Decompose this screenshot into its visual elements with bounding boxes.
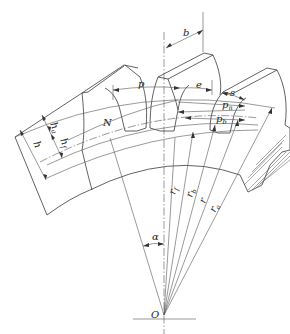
label-b: b [183,27,189,38]
pressure-angle-line [110,138,164,315]
rim-arc [90,165,240,190]
label-alpha: α [152,231,159,242]
radial-lines [110,108,272,315]
pn-dimension-line-2 [178,110,245,112]
rf-line [164,138,175,315]
hatched-section [240,125,290,192]
left-tooth [15,65,147,150]
ra-line [164,120,238,315]
h-dimension-line [20,130,46,180]
label-O: O [151,309,159,320]
p-dimension-line [113,87,180,90]
label-rf: rf [166,184,181,196]
gear-diagram: b p e s pn pb N ha hf h rf rb r ra α O [0,0,290,334]
left-root-line [47,190,90,215]
label-ra: ra [207,201,223,215]
pb-dimension-line [185,118,245,120]
label-hf: hf [56,136,72,151]
label-pn: pn [222,99,233,112]
label-e: e [196,79,202,90]
label-r: r [197,195,209,205]
label-h: h [31,139,44,149]
label-s: s [230,87,235,98]
pn-dimension-line [178,102,245,106]
label-p: p [138,78,145,89]
left-face-edge [15,137,47,215]
label-pb: pb [216,113,227,126]
rim-left-edge [88,175,92,190]
gear-diagram-svg: b p e s pn pb N ha hf h rf rb r ra α O [0,0,290,334]
middle-tooth [150,53,221,131]
label-rb: rb [183,187,198,200]
label-N: N [102,117,113,128]
